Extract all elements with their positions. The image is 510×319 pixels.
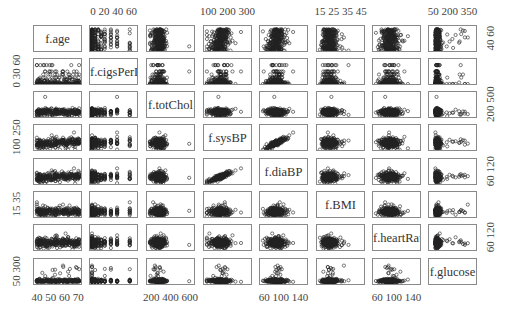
left-axis-ticks: 100 250 <box>10 112 22 162</box>
scatterplot-matrix: f.agef.cigsPerDayf.totCholf.sysBPf.diaBP… <box>0 0 510 319</box>
scatter-panel-diaBP-vs-totChol <box>259 91 308 118</box>
top-axis-ticks: 0 20 40 60 <box>79 5 149 17</box>
scatter-panel-sysBP-vs-cigsPerDay <box>203 58 252 85</box>
diagonal-label-panel: f.heartRate <box>372 224 421 251</box>
scatter-points <box>204 59 252 85</box>
scatter-points <box>34 92 82 118</box>
variable-label: f.glucose <box>429 264 476 279</box>
scatter-points <box>34 125 82 151</box>
scatter-panel-cigsPerDay-vs-BMI <box>89 191 138 218</box>
variable-label: f.age <box>34 31 81 46</box>
scatter-points <box>90 259 138 285</box>
scatter-points <box>317 259 365 285</box>
scatter-panel-glucose-vs-heartRate <box>428 224 477 251</box>
scatter-panel-heartRate-vs-totChol <box>372 91 421 118</box>
scatter-points <box>429 192 477 218</box>
scatter-points <box>204 92 252 118</box>
top-axis-ticks: 50 200 350 <box>418 5 488 17</box>
bottom-axis-ticks: 60 100 140 <box>249 291 319 303</box>
scatter-points <box>204 259 252 285</box>
scatter-points <box>147 59 195 85</box>
scatter-panel-diaBP-vs-age <box>259 25 308 52</box>
scatter-panel-heartRate-vs-sysBP <box>372 124 421 151</box>
scatter-panel-sysBP-vs-heartRate <box>203 224 252 251</box>
scatter-points <box>260 192 308 218</box>
scatter-panel-age-vs-diaBP <box>33 158 82 185</box>
scatter-points <box>90 159 138 185</box>
scatter-points <box>90 125 138 151</box>
scatter-panel-heartRate-vs-BMI <box>372 191 421 218</box>
scatter-points <box>260 259 308 285</box>
variable-label: f.sysBP <box>204 130 251 145</box>
scatter-panel-BMI-vs-cigsPerDay <box>316 58 365 85</box>
variable-label: f.totChol <box>147 97 194 112</box>
scatter-panel-diaBP-vs-BMI <box>259 191 308 218</box>
scatter-panel-glucose-vs-sysBP <box>428 124 477 151</box>
scatter-panel-BMI-vs-sysBP <box>316 124 365 151</box>
scatter-panel-cigsPerDay-vs-diaBP <box>89 158 138 185</box>
scatter-points <box>260 125 308 151</box>
scatter-points <box>429 159 477 185</box>
scatter-points <box>260 92 308 118</box>
diagonal-label-panel: f.age <box>33 25 82 52</box>
scatter-points <box>147 259 195 285</box>
scatter-panel-glucose-vs-cigsPerDay <box>428 58 477 85</box>
scatter-panel-sysBP-vs-diaBP <box>203 158 252 185</box>
diagonal-label-panel: f.BMI <box>316 191 365 218</box>
scatter-points <box>147 159 195 185</box>
scatter-panel-diaBP-vs-heartRate <box>259 224 308 251</box>
right-axis-ticks: 60 120 <box>484 212 496 262</box>
scatter-panel-totChol-vs-heartRate <box>146 224 195 251</box>
bottom-axis-ticks: 200 400 600 <box>136 291 206 303</box>
scatter-panel-age-vs-BMI <box>33 191 82 218</box>
scatter-panel-cigsPerDay-vs-sysBP <box>89 124 138 151</box>
scatter-panel-BMI-vs-age <box>316 25 365 52</box>
diagonal-label-panel: f.diaBP <box>259 158 308 185</box>
scatter-points <box>373 59 421 85</box>
scatter-points <box>429 59 477 85</box>
scatter-panel-heartRate-vs-glucose <box>372 258 421 285</box>
variable-label: f.diaBP <box>260 164 307 179</box>
scatter-panel-sysBP-vs-totChol <box>203 91 252 118</box>
scatter-panel-cigsPerDay-vs-age <box>89 25 138 52</box>
scatter-panel-BMI-vs-glucose <box>316 258 365 285</box>
scatter-points <box>147 225 195 251</box>
diagonal-label-panel: f.totChol <box>146 91 195 118</box>
scatter-panel-sysBP-vs-age <box>203 25 252 52</box>
scatter-panel-age-vs-totChol <box>33 91 82 118</box>
scatter-points <box>260 59 308 85</box>
scatter-panel-cigsPerDay-vs-totChol <box>89 91 138 118</box>
scatter-points <box>317 26 365 52</box>
scatter-points <box>429 26 477 52</box>
scatter-points <box>373 125 421 151</box>
scatter-points <box>260 225 308 251</box>
right-axis-ticks: 60 120 <box>484 146 496 196</box>
scatter-panel-age-vs-glucose <box>33 258 82 285</box>
scatter-panel-totChol-vs-BMI <box>146 191 195 218</box>
diagonal-label-panel: f.glucose <box>428 258 477 285</box>
scatter-points <box>373 26 421 52</box>
scatter-points <box>147 192 195 218</box>
scatter-panel-BMI-vs-diaBP <box>316 158 365 185</box>
scatter-points <box>204 225 252 251</box>
scatter-points <box>204 26 252 52</box>
scatter-panel-heartRate-vs-cigsPerDay <box>372 58 421 85</box>
scatter-points <box>204 159 252 185</box>
scatter-points <box>317 92 365 118</box>
top-axis-ticks: 15 25 35 45 <box>306 5 376 17</box>
scatter-points <box>34 159 82 185</box>
scatter-panel-heartRate-vs-diaBP <box>372 158 421 185</box>
scatter-points <box>147 26 195 52</box>
scatter-panel-BMI-vs-heartRate <box>316 224 365 251</box>
scatter-panel-diaBP-vs-cigsPerDay <box>259 58 308 85</box>
right-axis-ticks: 40 60 <box>484 13 496 63</box>
scatter-points <box>429 125 477 151</box>
scatter-panel-BMI-vs-totChol <box>316 91 365 118</box>
variable-label: f.cigsPerDay <box>90 64 137 79</box>
scatter-points <box>34 59 82 85</box>
scatter-panel-diaBP-vs-glucose <box>259 258 308 285</box>
scatter-panel-sysBP-vs-glucose <box>203 258 252 285</box>
scatter-panel-totChol-vs-age <box>146 25 195 52</box>
diagonal-label-panel: f.cigsPerDay <box>89 58 138 85</box>
left-axis-ticks: 0 30 60 <box>10 46 22 96</box>
